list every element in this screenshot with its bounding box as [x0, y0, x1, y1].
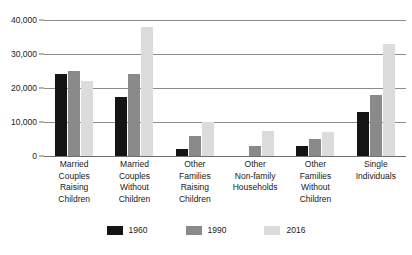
y-axis-tick-label: 30,000	[11, 50, 37, 59]
bar-set	[346, 20, 406, 156]
category-label-line: Raising	[166, 182, 224, 194]
bar-chart: 40,000 30,000 20,000 10,000 0 MarriedCou…	[0, 0, 412, 255]
legend-label: 1960	[129, 226, 148, 235]
category-label-line: Couples	[105, 171, 163, 183]
x-axis-category-label: MarriedCouplesWithoutChildren	[104, 159, 164, 205]
legend-item-1960: 1960	[107, 226, 148, 235]
bar-group	[44, 20, 104, 156]
chart-legend: 1960 1990 2016	[0, 226, 412, 235]
bar-2016	[322, 132, 334, 156]
bar-set	[44, 20, 104, 156]
legend-label: 2016	[286, 226, 305, 235]
x-axis-category-label: MarriedCouplesRaisingChildren	[44, 159, 104, 205]
bar-2016	[202, 122, 214, 156]
category-label-line: Individuals	[347, 171, 405, 183]
bar-1990	[189, 136, 201, 156]
category-label-line: Children	[286, 194, 344, 206]
y-axis-tick-label: 10,000	[11, 118, 37, 127]
category-label-line: Married	[105, 159, 163, 171]
y-axis-tick-label: 40,000	[11, 16, 37, 25]
bar-set	[104, 20, 164, 156]
x-axis-category-label: SingleIndividuals	[346, 159, 406, 205]
category-label-line: Children	[105, 194, 163, 206]
category-label-line: Families	[286, 171, 344, 183]
bar-group	[165, 20, 225, 156]
bar-groups	[44, 20, 406, 156]
bar-2016	[141, 27, 153, 156]
bar-2016	[262, 131, 274, 157]
bar-set	[165, 20, 225, 156]
category-label-line: Other	[166, 159, 224, 171]
legend-item-2016: 2016	[264, 226, 305, 235]
bar-1960	[176, 149, 188, 156]
bar-group	[104, 20, 164, 156]
category-label-line: Other	[286, 159, 344, 171]
category-label-line: Children	[45, 194, 103, 206]
bar-1960	[296, 146, 308, 156]
bar-2016	[81, 81, 93, 156]
x-axis-category-label: OtherFamiliesWithoutChildren	[285, 159, 345, 205]
legend-swatch-icon	[264, 226, 280, 235]
category-label-line: Other	[226, 159, 284, 171]
bar-1960	[55, 74, 67, 156]
plot-area	[44, 20, 406, 156]
legend-item-1990: 1990	[186, 226, 227, 235]
category-label-line: Single	[347, 159, 405, 171]
category-label-line: Without	[105, 182, 163, 194]
bar-group	[346, 20, 406, 156]
bar-1960	[115, 97, 127, 157]
category-label-line: Families	[166, 171, 224, 183]
bar-set	[285, 20, 345, 156]
bar-1960	[357, 112, 369, 156]
category-label-line: Married	[45, 159, 103, 171]
category-label-line: Raising	[45, 182, 103, 194]
x-axis-category-label: OtherNon-familyHouseholds	[225, 159, 285, 205]
gridline-baseline	[44, 156, 406, 157]
y-axis: 40,000 30,000 20,000 10,000 0	[0, 20, 44, 156]
x-axis-category-label: OtherFamiliesRaisingChildren	[165, 159, 225, 205]
y-axis-tick-label: 20,000	[11, 84, 37, 93]
legend-label: 1990	[208, 226, 227, 235]
legend-swatch-icon	[186, 226, 202, 235]
bar-1990	[68, 71, 80, 156]
category-label-line: Children	[166, 194, 224, 206]
y-axis-tick-label: 0	[32, 152, 37, 161]
bar-1990	[309, 139, 321, 156]
category-label-line: Couples	[45, 171, 103, 183]
bar-1990	[370, 95, 382, 156]
legend-swatch-icon	[107, 226, 123, 235]
bar-group	[225, 20, 285, 156]
category-label-line: Non-family	[226, 171, 284, 183]
category-label-line: Without	[286, 182, 344, 194]
bar-group	[285, 20, 345, 156]
bar-2016	[383, 44, 395, 156]
bar-1990	[249, 146, 261, 156]
category-label-line: Households	[226, 182, 284, 194]
bar-set	[225, 20, 285, 156]
bar-1990	[128, 74, 140, 156]
x-axis-category-labels: MarriedCouplesRaisingChildrenMarriedCoup…	[44, 159, 406, 205]
